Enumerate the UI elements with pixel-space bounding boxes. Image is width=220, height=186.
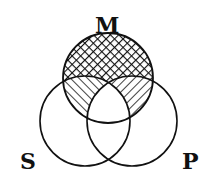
label-s: S [20,150,36,172]
venn-diagram: M S P [0,0,220,186]
label-m: M [95,14,119,36]
label-p: P [182,150,199,172]
